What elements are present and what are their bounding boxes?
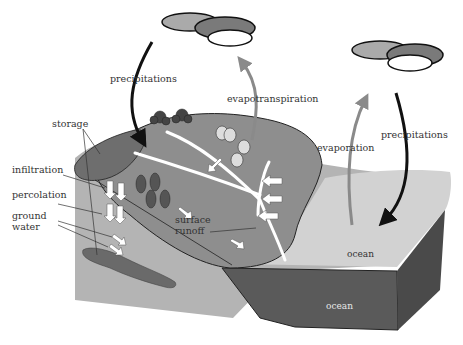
water-cycle-diagram: precipitations evapotranspiration evapor… bbox=[0, 0, 463, 345]
cloud-right bbox=[352, 41, 443, 71]
label-ocean-surface: ocean bbox=[347, 249, 374, 259]
label-surface-runoff-line1: surface bbox=[175, 214, 211, 225]
label-evaporation: evaporation bbox=[317, 142, 374, 153]
label-storage: storage bbox=[52, 118, 89, 129]
label-precipitations-left: precipitations bbox=[110, 73, 177, 84]
label-surface-runoff-line2: runoff bbox=[175, 225, 205, 236]
label-evapotranspiration: evapotranspiration bbox=[227, 93, 319, 104]
label-percolation: percolation bbox=[12, 189, 67, 200]
label-ocean-depth: ocean bbox=[326, 301, 353, 311]
label-precipitations-right: precipitations bbox=[381, 129, 448, 140]
cloud-left bbox=[162, 13, 255, 46]
label-ground-water-line1: ground bbox=[12, 210, 47, 221]
label-ground-water-line2: water bbox=[12, 221, 40, 232]
label-infiltration: infiltration bbox=[12, 164, 63, 175]
ocean-front-face bbox=[222, 268, 398, 330]
